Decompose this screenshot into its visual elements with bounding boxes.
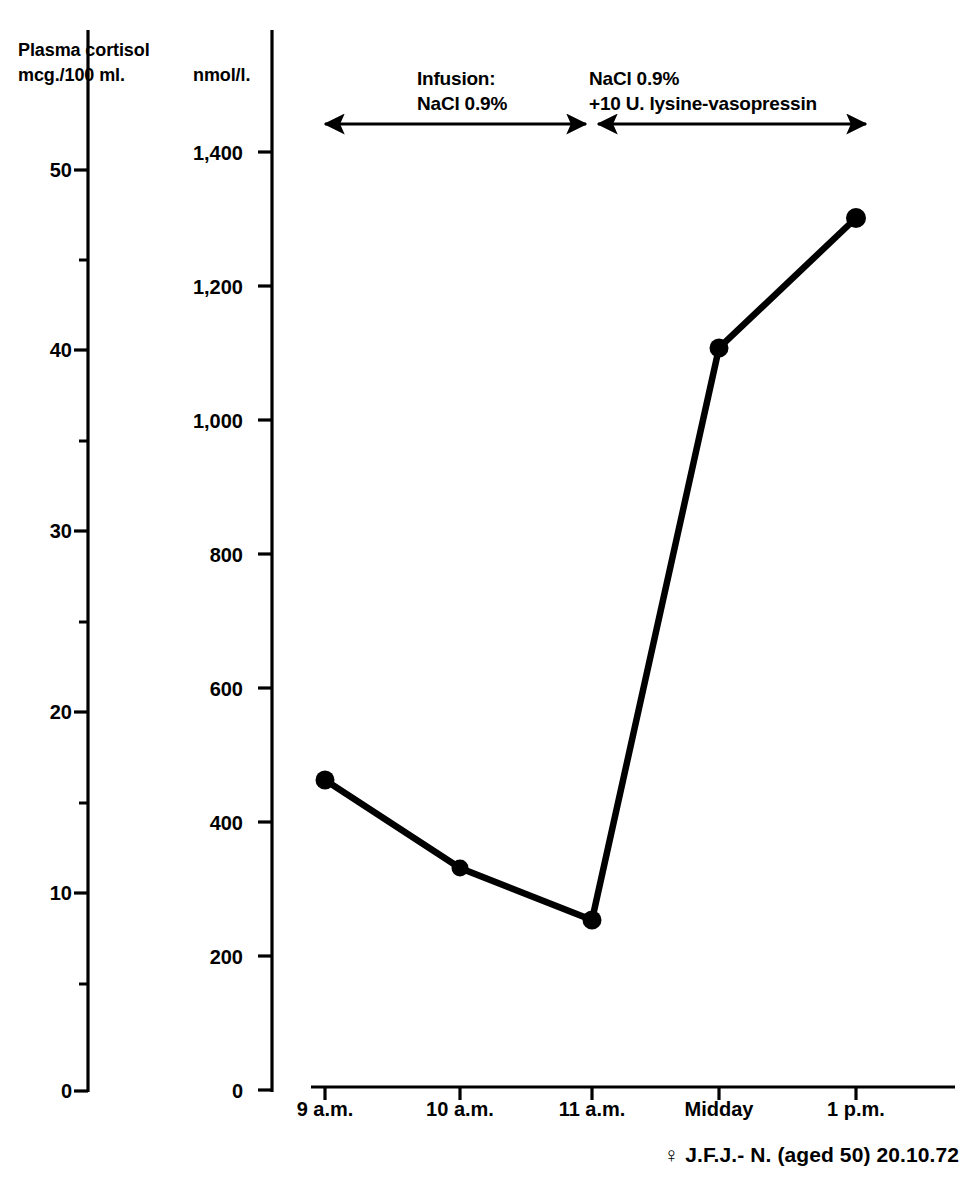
- left-axis-tick-40: 40: [0, 340, 72, 360]
- right-axis-tick-600: 600: [130, 679, 243, 699]
- left-axis-minor-ticks: [79, 260, 88, 984]
- right-axis-tick-400: 400: [130, 813, 243, 833]
- annotation-infusion-line1: Infusion:: [417, 66, 495, 91]
- left-axis-title-line1: Plasma cortisol: [18, 38, 150, 63]
- data-point-10am: [452, 860, 469, 877]
- cortisol-series-line: [325, 218, 856, 920]
- chart-vector-layer: [0, 0, 979, 1183]
- right-axis-tick-1400: 1,400: [130, 143, 243, 163]
- data-point-11am: [583, 911, 602, 930]
- x-axis-tick-midday: Midday: [639, 1098, 799, 1120]
- left-axis-tick-30: 30: [0, 521, 72, 541]
- left-axis-tick-0: 0: [0, 1081, 72, 1101]
- nmol-axis-ticks: [258, 152, 272, 1090]
- data-point-9am: [316, 771, 335, 790]
- cortisol-series-markers: [316, 208, 867, 930]
- left-axis-tick-10: 10: [0, 883, 72, 903]
- right-axis-tick-1000: 1,000: [130, 411, 243, 431]
- right-axis-tick-0: 0: [130, 1081, 243, 1101]
- figure-caption: ♀ J.F.J.- N. (aged 50) 20.10.72: [0, 1143, 959, 1167]
- left-axis-title-line2: mcg./100 ml.: [18, 63, 125, 88]
- right-axis-tick-800: 800: [130, 545, 243, 565]
- data-point-1pm: [846, 208, 866, 228]
- annotation-vasopressin-line1: NaCl 0.9%: [589, 66, 679, 91]
- figure-panel: Plasma cortisol mcg./100 ml. nmol/l. Inf…: [0, 0, 979, 1183]
- annotation-vasopressin-line2: +10 U. lysine-vasopressin: [589, 91, 817, 116]
- annotation-infusion-line2: NaCl 0.9%: [417, 91, 507, 116]
- left-axis-tick-50: 50: [0, 160, 72, 180]
- left-axis-tick-20: 20: [0, 702, 72, 722]
- right-axis-title: nmol/l.: [193, 63, 250, 88]
- right-axis-tick-200: 200: [130, 947, 243, 967]
- left-axis-major-ticks: [74, 170, 88, 1091]
- x-axis-tick-1pm: 1 p.m.: [776, 1098, 936, 1120]
- data-point-midday: [710, 339, 729, 358]
- right-axis-tick-1200: 1,200: [130, 277, 243, 297]
